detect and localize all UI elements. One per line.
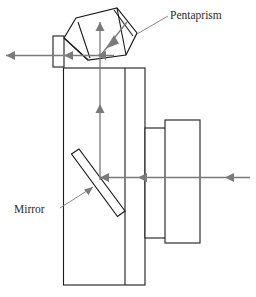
mirror-label: Mirror	[14, 203, 45, 215]
pentaprism-label: Pentaprism	[170, 9, 222, 22]
optical-diagram: Pentaprism Mirror	[0, 0, 256, 297]
lens-barrel-outer	[165, 120, 200, 243]
incoming-ray-arrowhead-3	[225, 173, 234, 182]
exit-ray-arrowhead-1	[6, 51, 15, 60]
eyepiece	[53, 36, 64, 67]
pentaprism-leader-line	[137, 16, 168, 34]
lens-barrel-inner	[145, 128, 167, 238]
diagram-canvas: Pentaprism Mirror	[0, 0, 256, 297]
exit-ray-arrowhead-2	[64, 51, 73, 60]
